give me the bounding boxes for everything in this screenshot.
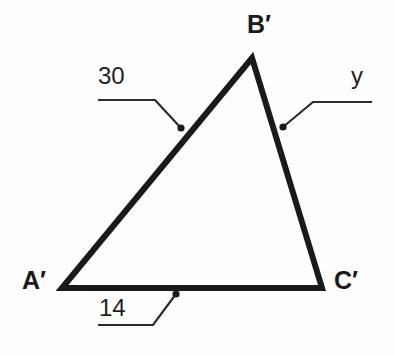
side-length-label-bc: y (351, 64, 363, 88)
leader-line-y (283, 102, 372, 127)
triangle-diagram-canvas (0, 0, 394, 356)
vertex-label-c: C′ (334, 268, 358, 293)
leader-line-30 (98, 100, 181, 128)
geometry-figure: B′ A′ C′ 30 y 14 (0, 0, 394, 356)
side-length-label-ac: 14 (99, 296, 126, 320)
vertex-label-a: A′ (22, 268, 46, 293)
leader-dot-14 (172, 290, 179, 297)
side-length-label-ab: 30 (98, 64, 125, 88)
leader-dot-y (279, 123, 286, 130)
vertex-label-b: B′ (247, 12, 271, 37)
leader-dot-30 (177, 124, 184, 131)
triangle-outline (62, 58, 322, 288)
